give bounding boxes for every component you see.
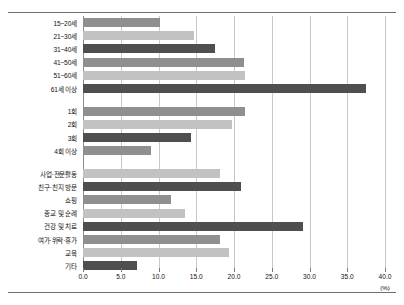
y-axis-label: 41~50세 [53,57,77,67]
x-tick-label-20.0: 20.0 [228,273,241,280]
bar [83,120,232,129]
y-axis-label: 4회 이상 [54,146,77,156]
x-tick-10.0 [159,268,160,272]
bar [83,71,245,80]
bar-row: 건강 및 치료 [83,222,385,231]
y-axis-label: 15~20세 [53,18,77,28]
bar [83,44,215,53]
y-axis-label: 친구·친지 방문 [38,182,77,192]
y-axis-label: 1회 [68,106,77,116]
y-axis-label: 2회 [68,119,77,129]
bar [83,31,194,40]
x-tick-label-15.0: 15.0 [190,273,203,280]
y-axis-label: 쇼핑 [65,195,77,205]
y-axis-label: 기타 [65,261,77,271]
bar-row: 61세 이상 [83,84,385,93]
chart-figure: 15~20세21~30세31~40세41~50세51~60세61세 이상1회2회… [0,0,404,305]
y-axis-label: 건강 및 치료 [44,221,77,231]
bar [83,84,366,93]
bar-row: 1회 [83,107,385,116]
bar-row: 51~60세 [83,71,385,80]
bar [83,146,151,155]
bar-row: 4회 이상 [83,146,385,155]
x-tick-label-5.0: 5.0 [116,273,125,280]
x-axis-unit-label: (%) [380,284,390,291]
bar-row: 2회 [83,120,385,129]
x-tick-0.0 [83,268,84,272]
bar-rows: 15~20세21~30세31~40세41~50세51~60세61세 이상1회2회… [83,16,385,268]
gridline-40.0 [385,16,386,268]
bar [83,209,185,218]
x-tick-5.0 [121,268,122,272]
x-tick-label-40.0: 40.0 [379,273,392,280]
bar [83,18,160,27]
bar-row: 15~20세 [83,18,385,27]
x-tick-20.0 [234,268,235,272]
y-axis-label: 3회 [68,133,77,143]
bar-row: 21~30세 [83,31,385,40]
y-axis-label: 61세 이상 [51,84,77,94]
x-tick-40.0 [385,268,386,272]
y-axis-label: 21~30세 [53,31,77,41]
x-tick-15.0 [196,268,197,272]
y-axis-label: 교육 [65,248,77,258]
bar-row: 종교 및 순례 [83,209,385,218]
x-tick-label-10.0: 10.0 [152,273,165,280]
y-axis-label: 종교 및 순례 [44,208,77,218]
plot-area: 15~20세21~30세31~40세41~50세51~60세61세 이상1회2회… [83,16,385,268]
bar [83,182,241,191]
bar-row: 쇼핑 [83,195,385,204]
bar [83,222,303,231]
bar [83,235,220,244]
bar [83,133,191,142]
x-tick-label-0.0: 0.0 [78,273,87,280]
bar [83,195,171,204]
bar-row: 41~50세 [83,58,385,67]
x-tick-35.0 [347,268,348,272]
x-tick-25.0 [272,268,273,272]
bar [83,248,229,257]
figure-top-rule [8,12,396,13]
bar [83,107,245,116]
x-tick-label-30.0: 30.0 [303,273,316,280]
bar-row: 교육 [83,248,385,257]
bar-row: 친구·친지 방문 [83,182,385,191]
y-axis-label: 51~60세 [53,70,77,80]
bar-row: 3회 [83,133,385,142]
x-axis: 0.05.010.015.020.025.030.035.040.0 (%) [83,268,385,302]
x-tick-label-25.0: 25.0 [265,273,278,280]
y-axis-label: 여가·위락·휴가 [38,235,77,245]
bar-row: 사업·전문활동 [83,169,385,178]
y-axis-label: 31~40세 [53,44,77,54]
bar-row: 여가·위락·휴가 [83,235,385,244]
x-tick-label-35.0: 35.0 [341,273,354,280]
y-axis-label: 사업·전문활동 [40,169,77,179]
bar [83,169,220,178]
bar-row: 31~40세 [83,44,385,53]
x-tick-30.0 [310,268,311,272]
bar [83,58,244,67]
